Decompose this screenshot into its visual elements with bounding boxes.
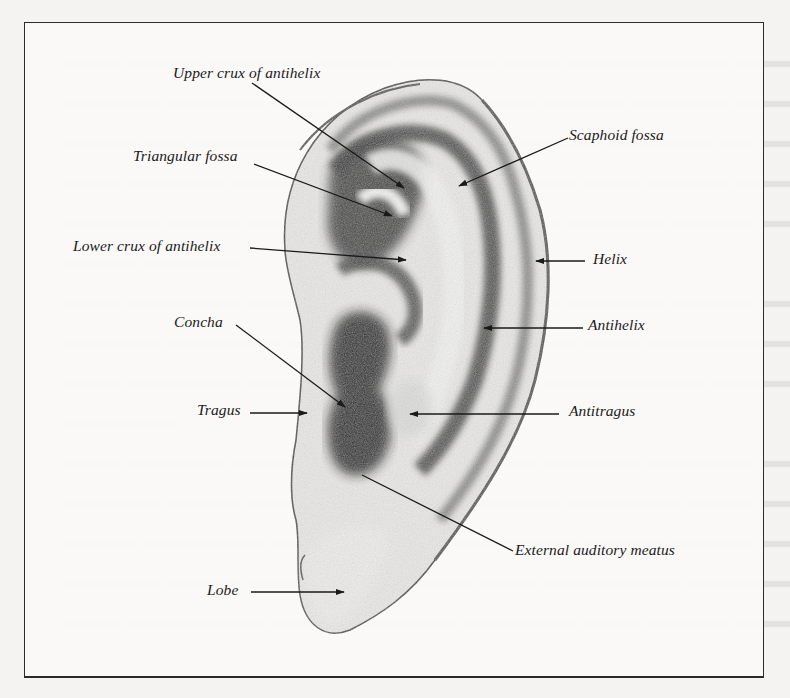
- label-scaphoid-fossa: Scaphoid fossa: [569, 126, 664, 144]
- auricle: [285, 80, 549, 633]
- label-lobe: Lobe: [207, 581, 238, 599]
- label-concha: Concha: [174, 313, 223, 331]
- label-lower-crux-of-antihelix: Lower crux of antihelix: [73, 237, 220, 255]
- label-external-auditory-meatus: External auditory meatus: [515, 541, 675, 559]
- label-triangular-fossa: Triangular fossa: [133, 147, 238, 165]
- label-antihelix: Antihelix: [588, 316, 645, 334]
- label-antitragus: Antitragus: [569, 402, 635, 420]
- label-upper-crux-of-antihelix: Upper crux of antihelix: [173, 64, 320, 82]
- ear-illustration: [0, 0, 790, 698]
- label-tragus: Tragus: [197, 401, 241, 419]
- label-helix: Helix: [593, 250, 627, 268]
